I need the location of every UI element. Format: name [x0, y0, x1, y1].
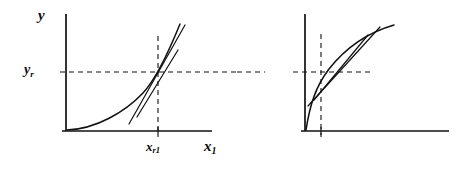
- secant-line: [137, 50, 178, 117]
- x-root-label: xr1: [146, 140, 160, 153]
- tangent-line: [129, 25, 185, 124]
- x-axis-label: x1: [204, 139, 216, 154]
- concave-root-panel: y yr xr2 x2: [237, 0, 474, 172]
- x-root-label-base: x: [146, 139, 153, 154]
- x-axis-label-subscript: 1: [212, 145, 217, 156]
- x-root-label-subscript: r1: [153, 145, 160, 155]
- y-axis-label: y: [38, 8, 45, 23]
- x-axis-label-base: x: [204, 138, 212, 154]
- y-root-label-subscript: r: [30, 69, 33, 79]
- concave-plot: [237, 0, 474, 172]
- convex-plot: [0, 0, 237, 172]
- convex-curve: [67, 24, 180, 130]
- y-root-label: yr: [24, 63, 34, 77]
- concave-curve: [306, 25, 394, 130]
- root-finding-figure: y yr xr1 x1 y yr xr2: [0, 0, 474, 172]
- tangent-line: [308, 27, 380, 106]
- convex-root-panel: y yr xr1 x1: [0, 0, 237, 172]
